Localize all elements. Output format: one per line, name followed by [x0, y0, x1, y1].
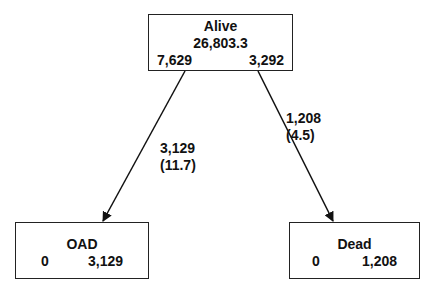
- edge-dead-rate: (4.5): [286, 127, 321, 144]
- edge-oad-rate: (11.7): [160, 157, 196, 174]
- edge-dead-count: 1,208: [286, 110, 321, 127]
- node-alive-right-value: 3,292: [249, 52, 284, 68]
- node-dead-title: Dead: [290, 236, 419, 252]
- node-alive-title: Alive: [149, 18, 292, 34]
- arrow-alive-to-dead: [258, 71, 333, 221]
- node-oad-right-value: 3,129: [88, 253, 123, 269]
- edge-dead-label: 1,208 (4.5): [286, 110, 321, 144]
- node-oad: OAD 0 3,129: [15, 222, 149, 279]
- node-dead-left-value: 0: [312, 253, 320, 269]
- node-oad-title: OAD: [16, 236, 148, 252]
- node-alive: Alive 26,803.3 7,629 3,292: [148, 14, 293, 71]
- node-alive-left-value: 7,629: [157, 52, 192, 68]
- edge-oad-count: 3,129: [160, 140, 196, 157]
- edge-oad-label: 3,129 (11.7): [160, 140, 196, 174]
- node-dead: Dead 0 1,208: [289, 222, 420, 279]
- node-oad-left-value: 0: [41, 253, 49, 269]
- node-dead-right-value: 1,208: [362, 253, 397, 269]
- node-alive-value: 26,803.3: [149, 35, 292, 51]
